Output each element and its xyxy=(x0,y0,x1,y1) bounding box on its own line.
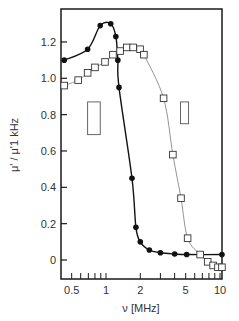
series-markers xyxy=(61,21,225,271)
data-point-circle xyxy=(138,239,144,245)
data-point-square xyxy=(141,51,148,58)
x-axis-label: ν [MHz] xyxy=(122,302,159,314)
chart: 00.20.40.60.81.01.2 0.512510 ν [MHz] μ' … xyxy=(0,0,239,321)
data-point-square xyxy=(84,70,91,77)
data-point-square xyxy=(130,44,137,51)
data-point-square xyxy=(110,51,117,58)
data-point-square xyxy=(117,48,124,55)
x-tick-label: 1 xyxy=(103,284,109,296)
data-point-circle xyxy=(113,34,119,40)
data-point-square xyxy=(219,264,226,271)
data-point-square xyxy=(102,59,109,66)
data-point-circle xyxy=(97,23,103,29)
data-point-square xyxy=(160,95,167,102)
data-point-square xyxy=(123,44,130,51)
y-tick-label: 0.8 xyxy=(41,109,56,121)
data-point-circle xyxy=(219,252,225,258)
data-point-square xyxy=(92,64,99,71)
data-point-square xyxy=(170,151,177,158)
data-point-circle xyxy=(129,175,135,181)
data-point-square xyxy=(178,195,185,202)
x-axis: 0.512510 xyxy=(64,273,226,296)
data-point-circle xyxy=(116,85,122,91)
y-axis-label: μ' / μ'1 kHz xyxy=(8,118,20,172)
data-point-square xyxy=(75,77,82,84)
series-curves xyxy=(64,22,222,267)
data-point-circle xyxy=(85,46,91,52)
annotation-boxes xyxy=(88,102,189,135)
y-axis: 00.20.40.60.81.01.2 xyxy=(41,36,67,266)
y-tick-label: 0 xyxy=(50,254,56,266)
y-tick-label: 0.4 xyxy=(41,181,56,193)
annotation-rectangle xyxy=(180,102,188,124)
data-point-circle xyxy=(184,252,190,258)
y-tick-label: 1.0 xyxy=(41,72,56,84)
data-point-square xyxy=(61,82,68,89)
x-tick-label: 5 xyxy=(183,284,189,296)
y-tick-label: 0.2 xyxy=(41,218,56,230)
data-point-square xyxy=(197,251,204,258)
x-tick-label: 2 xyxy=(137,284,143,296)
x-tick-label: 0.5 xyxy=(64,284,79,296)
data-point-circle xyxy=(158,250,164,256)
data-point-circle xyxy=(147,247,153,253)
data-point-circle xyxy=(61,57,67,63)
data-point-square xyxy=(184,235,191,242)
data-point-circle xyxy=(108,21,114,27)
square-series-curve xyxy=(64,47,222,267)
data-point-circle xyxy=(133,224,139,230)
x-tick-label: 10 xyxy=(214,284,226,296)
annotation-rectangle xyxy=(88,102,101,135)
y-tick-label: 1.2 xyxy=(41,36,56,48)
y-tick-label: 0.6 xyxy=(41,145,56,157)
data-point-circle xyxy=(172,251,178,257)
